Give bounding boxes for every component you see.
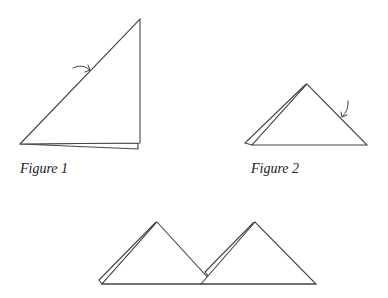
figure-1-drawing xyxy=(20,19,140,149)
figure-2-drawing xyxy=(245,84,367,145)
figure-3-left-front-triangle xyxy=(102,222,210,284)
figure-3-right-front-triangle xyxy=(201,222,316,284)
fold-arrow-icon xyxy=(341,101,348,117)
fold-arrow-icon xyxy=(73,65,90,72)
figure-2-caption: Figure 2 xyxy=(251,161,299,177)
figure-2-front-triangle xyxy=(252,84,367,145)
figure-3-drawing xyxy=(99,222,316,284)
figure-1-caption: Figure 1 xyxy=(20,161,68,177)
diagram-canvas xyxy=(0,0,388,298)
figure-1-front-triangle xyxy=(20,19,140,144)
